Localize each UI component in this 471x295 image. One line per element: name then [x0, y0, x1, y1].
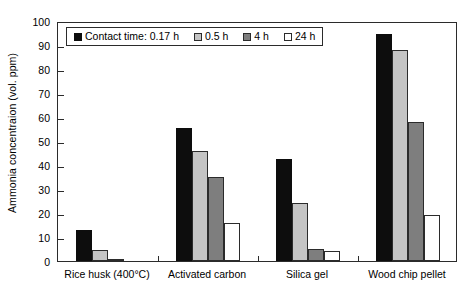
x-category-label: Activated carbon [168, 268, 246, 280]
y-tick-mark [58, 71, 64, 72]
x-tick-mark [258, 256, 259, 261]
bar [208, 177, 224, 261]
bar [376, 34, 392, 261]
y-tick-mark [58, 143, 64, 144]
legend: Contact time: 0.17 h0.5 h4 h24 h [66, 27, 323, 46]
legend-item: 0.5 h [194, 31, 228, 42]
x-category-label: Silica gel [286, 268, 328, 280]
bars-layer [58, 23, 456, 261]
y-tick-mark [58, 191, 64, 192]
y-tick-mark [58, 215, 64, 216]
bar [424, 215, 440, 261]
bar [108, 259, 124, 261]
x-axis-category-labels: Rice husk (400°C)Activated carbonSilica … [57, 268, 457, 288]
y-tick-mark [58, 167, 64, 168]
legend-item: Contact time: 0.17 h [74, 31, 179, 42]
y-tick-label: 40 [38, 161, 50, 171]
y-tick-label: 80 [38, 65, 50, 75]
bar [176, 128, 192, 261]
y-tick-label: 30 [38, 185, 50, 195]
bar [408, 122, 424, 261]
x-tick-mark [358, 256, 359, 261]
y-tick-label: 60 [38, 113, 50, 123]
legend-swatch-icon [194, 33, 202, 41]
legend-label: 0.5 h [205, 31, 228, 42]
y-tick-label: 90 [38, 41, 50, 51]
bar-chart: Ammonia concentraion (vol. ppm) 01020304… [0, 0, 471, 295]
legend-item: 4 h [243, 31, 269, 42]
y-tick-mark [58, 119, 64, 120]
y-tick-label: 50 [38, 137, 50, 147]
bar [276, 159, 292, 261]
y-tick-label: 10 [38, 233, 50, 243]
y-tick-mark [58, 239, 64, 240]
legend-label: Contact time: 0.17 h [85, 31, 179, 42]
y-axis-title: Ammonia concentraion (vol. ppm) [0, 0, 24, 265]
legend-label: 4 h [254, 31, 269, 42]
legend-label: 24 h [295, 31, 315, 42]
bar [92, 250, 108, 261]
bar [76, 230, 92, 261]
x-category-label: Wood chip pellet [368, 268, 445, 280]
bar [392, 50, 408, 261]
y-tick-label: 100 [32, 17, 50, 27]
legend-item: 24 h [284, 31, 315, 42]
legend-swatch-icon [243, 33, 251, 41]
bar [292, 203, 308, 261]
y-axis-tick-labels: 0102030405060708090100 [24, 0, 54, 295]
y-tick-mark [58, 47, 64, 48]
x-tick-mark [158, 256, 159, 261]
y-tick-label: 0 [44, 257, 50, 267]
x-category-label: Rice husk (400°C) [64, 268, 149, 280]
bar [224, 223, 240, 261]
y-tick-label: 20 [38, 209, 50, 219]
legend-swatch-icon [74, 33, 82, 41]
bar [308, 249, 324, 261]
bar [324, 251, 340, 261]
legend-swatch-icon [284, 33, 292, 41]
y-axis-title-text: Ammonia concentraion (vol. ppm) [6, 52, 18, 212]
y-tick-mark [58, 95, 64, 96]
y-tick-label: 70 [38, 89, 50, 99]
plot-area [57, 22, 457, 262]
bar [192, 151, 208, 261]
